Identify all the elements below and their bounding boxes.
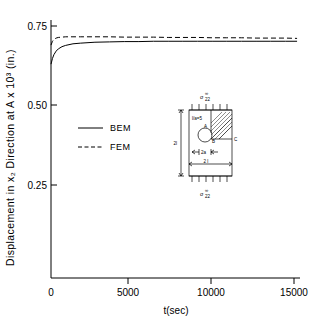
x-ticklabel-15000: 15000 [280,287,308,298]
inset-schematic: σ 22 ∞ [173,91,246,199]
x-ticklabel-5000: 5000 [117,287,140,298]
inset-height-label: 2l [173,141,177,146]
legend-label-fem: FEM [110,142,131,152]
inset-bottom-stress-sub: 22 [205,194,211,199]
inset-span-dimension: 2 l [189,159,232,166]
y-ticklabel-075: 0.75 [28,21,48,32]
chart-legend: BEM FEM [78,123,131,152]
inset-point-c-label: C [234,137,238,142]
inset-top-stress-sub: 22 [205,97,211,102]
series-line-bem [51,41,297,64]
inset-bottom-arrows [189,176,232,182]
inset-bottom-stress-symbol: σ [200,191,204,197]
chart-figure: Displacement in x₂ Direction at A x 10³ … [0,0,332,329]
inset-width-label: 2a [201,150,207,155]
y-ticklabel-050: 0.50 [28,100,48,111]
inset-ratio-label: l/a=5 [192,116,202,121]
inset-point-b-label: B [212,139,215,144]
y-axis-label: Displacement in x₂ Direction at A x 10³ … [4,49,16,266]
inset-bottom-stress-sup: ∞ [205,188,208,193]
inset-hole-circle [198,128,212,142]
inset-point-a-label: A [204,124,207,129]
inset-width-dimension: 2a [192,149,218,155]
y-ticklabel-025: 0.25 [28,180,48,191]
inset-top-stress-symbol: σ [200,94,204,100]
x-ticklabel-10000: 10000 [197,287,225,298]
inset-top-stress-sup: ∞ [205,91,208,96]
chart-svg: Displacement in x₂ Direction at A x 10³ … [0,0,332,329]
inset-top-arrows [189,104,232,110]
inset-span-label: 2 l [204,159,209,164]
x-ticklabel-0: 0 [48,287,54,298]
legend-label-bem: BEM [110,123,131,133]
inset-height-dimension: 2l [173,110,184,176]
x-axis-label: t(sec) [164,305,189,316]
